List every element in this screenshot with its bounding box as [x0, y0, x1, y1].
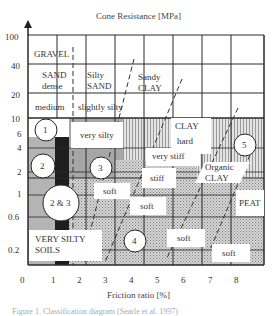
x-tick-4: 4 [129, 276, 134, 285]
y-tick-6: 6 [17, 130, 22, 139]
label-slightly-silty: slightly silty [78, 103, 123, 112]
label-dense: dense [42, 82, 63, 91]
label-silty: Silty [87, 71, 104, 80]
label-stiff: stiff [150, 174, 164, 183]
label-silty-sand: SAND [87, 82, 112, 91]
x-tick-0: 0 [20, 276, 25, 285]
y-tick-0.6: 0.6 [8, 213, 19, 222]
label-very-silty-soils-2: SOILS [35, 246, 60, 255]
x-tick-6: 6 [181, 276, 186, 285]
y-axis-arrow-icon [24, 20, 32, 28]
label-clay: CLAY [175, 122, 199, 131]
label-soft-2: soft [140, 202, 154, 211]
label-hard: hard [177, 137, 193, 146]
zone-2-label: 2 [40, 162, 45, 171]
y-tick-0.2: 0.2 [8, 246, 19, 255]
y-tick-100: 100 [5, 33, 19, 42]
zone-3-label: 3 [98, 164, 103, 173]
chart-title: Cone Resistance [MPa] [0, 11, 277, 21]
label-gravel: GRAVEL [34, 50, 69, 59]
y-tick-2: 2 [17, 168, 22, 177]
x-axis-title: Friction ratio [%] [0, 290, 277, 300]
y-tick-4: 4 [17, 144, 22, 153]
y-tick-40: 40 [11, 62, 20, 71]
zone-5-label: 5 [242, 141, 247, 150]
label-sand: SAND [42, 71, 67, 80]
label-sandy-clay: CLAY [138, 84, 162, 93]
y-tick-1: 1 [17, 190, 22, 199]
zone-1-label: 1 [43, 126, 48, 135]
label-very-silty-soils-1: VERY SILTY [35, 235, 86, 244]
label-organic-clay: CLAY [205, 174, 229, 183]
label-organic: Organic [205, 163, 234, 172]
label-soft-3: soft [177, 234, 191, 243]
x-tick-7: 7 [208, 276, 213, 285]
label-peat: PEAT [239, 199, 261, 208]
label-sandy: Sandy [138, 73, 161, 82]
zone-4-label: 4 [132, 237, 137, 246]
x-tick-1: 1 [51, 276, 56, 285]
y-tick-20: 20 [11, 91, 20, 100]
y-tick-10: 10 [11, 115, 20, 124]
x-tick-2: 2 [77, 276, 82, 285]
x-tick-5: 5 [155, 276, 160, 285]
label-very-stiff: very stiff [152, 152, 185, 161]
x-tick-3: 3 [103, 276, 108, 285]
figure-caption: Figure 1. Classification diagram (Searle… [12, 307, 178, 316]
x-tick-8: 8 [234, 276, 239, 285]
label-medium: medium [35, 103, 65, 112]
label-soft-1: soft [103, 187, 117, 196]
label-very-silty: very silty [80, 131, 114, 140]
label-soft-4: soft [222, 249, 236, 258]
zone-2-3-label: 2 & 3 [50, 199, 71, 208]
